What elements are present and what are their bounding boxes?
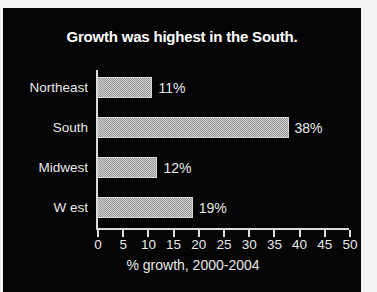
x-tick-mark	[97, 230, 99, 237]
x-tick-label: 50	[335, 237, 361, 252]
bar-value-northeast: 11%	[158, 80, 185, 96]
x-tick-mark	[173, 230, 175, 237]
x-tick-mark	[324, 230, 326, 237]
bar-midwest	[97, 157, 157, 178]
x-tick-mark	[147, 230, 149, 237]
x-tick-mark	[198, 230, 200, 237]
chart-image: Growth was highest in the South. Northea…	[0, 0, 377, 292]
chart-plot-area: Growth was highest in the South. Northea…	[3, 8, 361, 292]
bar-south	[97, 117, 289, 138]
chart-title: Growth was highest in the South.	[3, 28, 361, 45]
category-label-west: W est	[53, 200, 88, 215]
x-axis-title: % growth, 2000-2004	[63, 257, 323, 273]
x-tick-mark	[299, 230, 301, 237]
bar-northeast	[97, 77, 152, 98]
x-tick-mark	[248, 230, 250, 237]
category-label-south: South	[53, 120, 88, 135]
x-tick-mark	[122, 230, 124, 237]
x-tick-mark	[273, 230, 275, 237]
page-edge-left	[0, 0, 3, 292]
bar-value-midwest: 12%	[163, 160, 191, 176]
bar-value-south: 38%	[295, 120, 323, 136]
bar-west	[97, 197, 193, 218]
page-edge-right	[361, 0, 377, 292]
category-label-northeast: Northeast	[29, 80, 88, 95]
x-tick-mark	[349, 230, 351, 237]
category-label-midwest: Midwest	[38, 160, 88, 175]
x-tick-mark	[223, 230, 225, 237]
page-edge-top	[0, 0, 377, 8]
bar-value-west: 19%	[199, 200, 227, 216]
